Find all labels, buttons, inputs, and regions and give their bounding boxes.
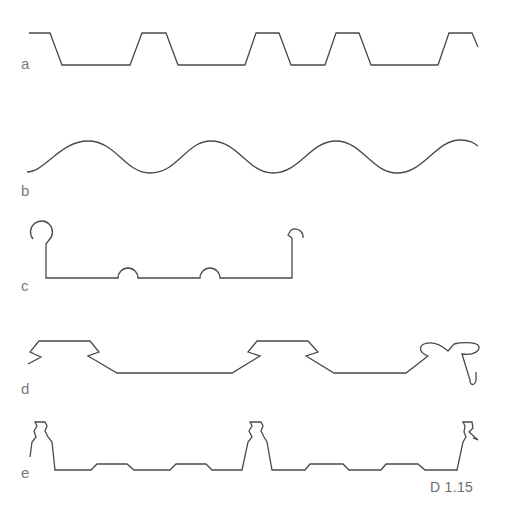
profile-e-label: e	[21, 465, 29, 480]
profile-d-label: d	[21, 381, 29, 396]
profile-b-label: b	[21, 183, 29, 198]
profile-b-sinusoidal	[27, 140, 478, 173]
profile-d-dovetail	[28, 341, 479, 385]
profile-a-label: a	[21, 56, 29, 71]
profile-a-trapezoidal	[29, 33, 478, 65]
profiles-svg	[0, 0, 505, 507]
profile-c-label: c	[21, 278, 29, 293]
profile-c-standing-seam	[30, 221, 303, 278]
figure-caption: D 1.15	[430, 480, 473, 494]
profile-diagram: a b c d e D 1.15	[0, 0, 505, 507]
profile-e-ribbed	[30, 422, 478, 470]
